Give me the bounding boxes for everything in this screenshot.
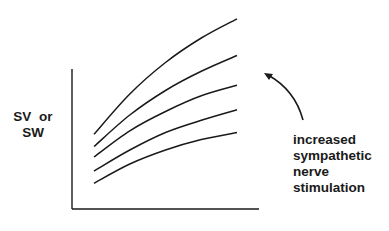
y-label-line-2: SW [13,125,53,141]
annotation-line-3: nerve [293,164,372,180]
y-label-line-1: SV or [13,109,53,125]
annotation-line-2: sympathetic [293,148,372,164]
annotation-line-4: stimulation [293,180,372,196]
y-axis-label: SV or SW [13,109,53,141]
curve-line-curve-5 [94,19,237,135]
diagram-canvas [0,0,389,231]
annotation-text: increased sympathetic nerve stimulation [293,132,372,196]
curve-line-curve-3 [94,85,237,157]
arrow-shaft [268,75,303,120]
annotation-line-1: increased [293,132,372,148]
